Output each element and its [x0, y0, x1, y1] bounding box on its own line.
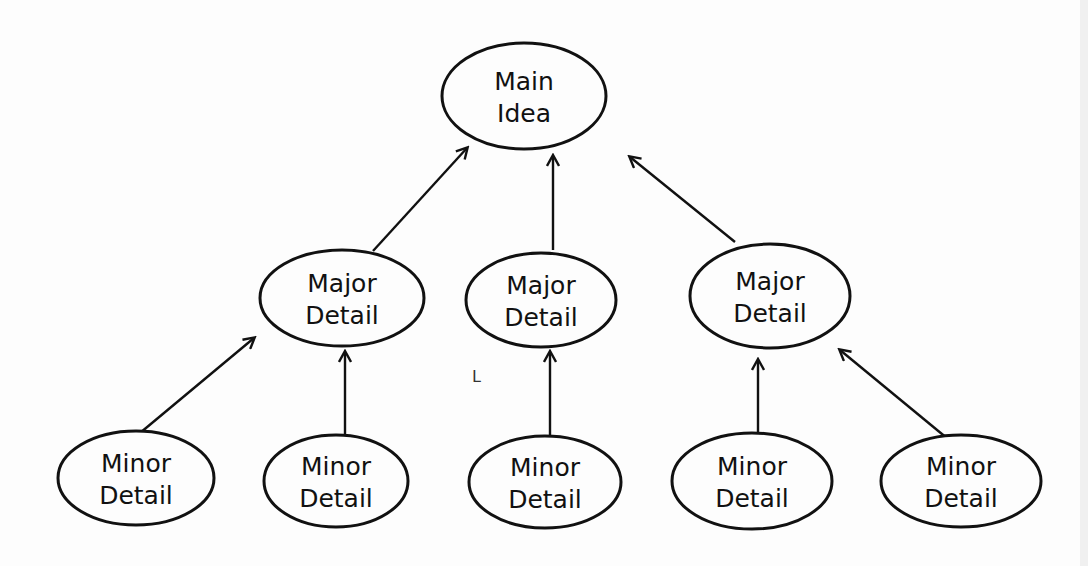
node-minor5: MinorDetail: [881, 435, 1041, 527]
node-ellipse: [264, 435, 408, 527]
node-label-line1: Minor: [510, 453, 581, 482]
node-major1: MajorDetail: [260, 250, 424, 346]
node-label-line2: Detail: [924, 484, 998, 513]
node-label-line2: Detail: [305, 301, 379, 330]
arrow-line: [840, 350, 948, 439]
node-label-line2: Detail: [299, 484, 373, 513]
node-label-line1: Main: [494, 67, 554, 96]
node-ellipse: [881, 435, 1041, 527]
node-label-line1: Minor: [717, 452, 788, 481]
node-label-line2: Idea: [497, 99, 551, 128]
node-label-line1: Major: [307, 269, 377, 298]
node-ellipse: [260, 250, 424, 346]
node-label-line1: Minor: [101, 449, 172, 478]
node-label-line1: Minor: [926, 452, 997, 481]
page-edge: [1080, 0, 1088, 566]
concept-hierarchy-diagram: MainIdeaMajorDetailMajorDetailMajorDetai…: [0, 0, 1088, 566]
node-label-line2: Detail: [99, 481, 173, 510]
node-label-line2: Detail: [733, 299, 807, 328]
node-label-line1: Major: [506, 271, 576, 300]
arrow-line: [630, 157, 735, 242]
arrow-major3-to-main: [630, 157, 735, 242]
node-ellipse: [466, 253, 616, 347]
arrow-line: [373, 148, 467, 251]
stray-pen-mark: L: [472, 367, 481, 386]
node-minor2: MinorDetail: [264, 435, 408, 527]
node-label-line1: Major: [735, 267, 805, 296]
arrow-minor5-to-major3: [840, 350, 948, 439]
node-ellipse: [672, 433, 832, 529]
node-label-line1: Minor: [301, 452, 372, 481]
node-ellipse: [469, 436, 621, 528]
arrow-major1-to-main: [373, 148, 467, 251]
arrow-minor1-to-major1: [140, 338, 254, 433]
node-ellipse: [442, 43, 606, 149]
node-main: MainIdea: [442, 43, 606, 149]
node-label-line2: Detail: [508, 485, 582, 514]
node-ellipse: [58, 431, 214, 525]
node-minor4: MinorDetail: [672, 433, 832, 529]
node-major2: MajorDetail: [466, 253, 616, 347]
node-minor1: MinorDetail: [58, 431, 214, 525]
node-ellipse: [690, 244, 850, 348]
arrow-line: [140, 338, 254, 433]
node-minor3: MinorDetail: [469, 436, 621, 528]
node-major3: MajorDetail: [690, 244, 850, 348]
node-label-line2: Detail: [715, 484, 789, 513]
node-label-line2: Detail: [504, 303, 578, 332]
